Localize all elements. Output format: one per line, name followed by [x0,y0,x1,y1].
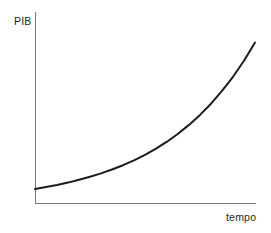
pib-curve [35,43,255,190]
chart-figure: PIB tempo [0,0,271,233]
chart-canvas [0,0,271,233]
x-axis-label: tempo [226,211,256,223]
